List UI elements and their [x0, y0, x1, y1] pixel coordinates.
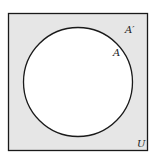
universe-label: U: [137, 138, 146, 149]
set-a-label: A: [112, 47, 120, 58]
complement-label: A′: [124, 24, 135, 35]
venn-diagram: A′ A U: [0, 0, 156, 159]
set-a-circle: [24, 28, 133, 137]
